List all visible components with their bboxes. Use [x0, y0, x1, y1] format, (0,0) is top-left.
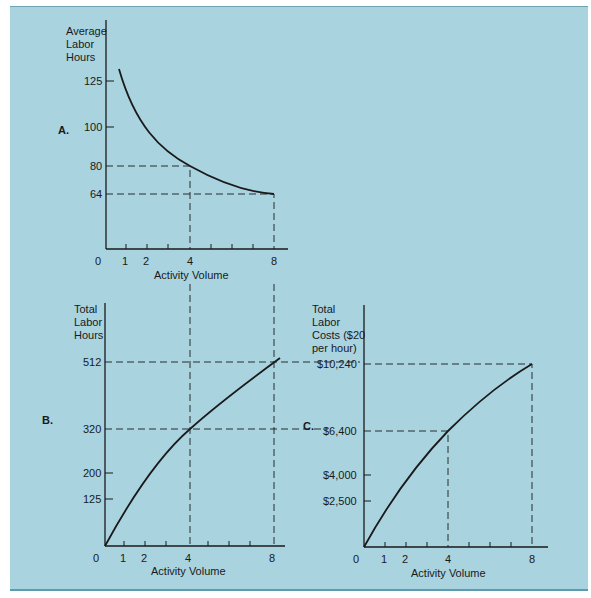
y-tick: $6,400 — [323, 425, 357, 437]
x-tick: 1 — [122, 255, 128, 267]
panel-label-b: B. — [42, 414, 53, 426]
x-tick: 4 — [445, 553, 451, 565]
y-tick: $4,000 — [323, 469, 357, 481]
y-tick: 100 — [84, 121, 102, 133]
y-axis-label-line2: Labor — [312, 316, 340, 328]
x-tick: 4 — [185, 552, 191, 564]
x-tick: 4 — [187, 255, 193, 267]
x-tick: 8 — [529, 553, 535, 565]
panel-label-c: C. — [303, 420, 314, 432]
y-axis-label-line1: Total — [74, 303, 97, 315]
y-axis-label-line3: Hours — [74, 329, 104, 341]
y-tick: 200 — [83, 467, 101, 479]
learning-curve-figure: A. Average Labor Hours 125 100 80 64 0 1… — [0, 0, 591, 598]
y-tick: $10,240 — [317, 358, 357, 370]
chart-a: A. Average Labor Hours 125 100 80 64 0 1… — [58, 20, 288, 281]
y-axis-label-line1: Total — [312, 303, 335, 315]
x-axis-label: Activity Volume — [151, 565, 226, 577]
chart-c: C. Total Labor Costs ($20 per hour) $10,… — [303, 303, 548, 579]
y-axis-label-line1: Average — [66, 25, 107, 37]
x-tick: 0 — [93, 552, 99, 564]
y-tick: $2,500 — [323, 495, 357, 507]
y-axis-label-line3: Costs ($20 — [312, 329, 365, 341]
x-tick: 2 — [402, 553, 408, 565]
x-axis-label: Activity Volume — [154, 269, 229, 281]
x-tick: 0 — [353, 553, 359, 565]
y-tick: 125 — [83, 493, 101, 505]
average-hours-curve — [119, 69, 274, 194]
y-tick: 125 — [84, 75, 102, 87]
y-tick: 320 — [83, 423, 101, 435]
y-tick: 80 — [90, 160, 102, 172]
x-axis-label: Activity Volume — [411, 567, 486, 579]
x-tick: 0 — [95, 255, 101, 267]
total-costs-curve — [364, 364, 532, 547]
x-tick: 8 — [271, 255, 277, 267]
y-tick: 512 — [83, 356, 101, 368]
total-hours-curve — [105, 358, 280, 546]
y-axis-label-line2: Labor — [66, 38, 94, 50]
x-tick: 8 — [269, 552, 275, 564]
y-axis-label-line4: per hour) — [312, 342, 357, 354]
y-tick: 64 — [90, 188, 102, 200]
y-axis-label-line3: Hours — [66, 51, 96, 63]
y-axis-label-line2: Labor — [74, 316, 102, 328]
x-tick: 2 — [143, 255, 149, 267]
x-tick: 1 — [381, 553, 387, 565]
x-tick: 1 — [120, 552, 126, 564]
x-tick: 2 — [141, 552, 147, 564]
panel-label-a: A. — [58, 124, 69, 136]
